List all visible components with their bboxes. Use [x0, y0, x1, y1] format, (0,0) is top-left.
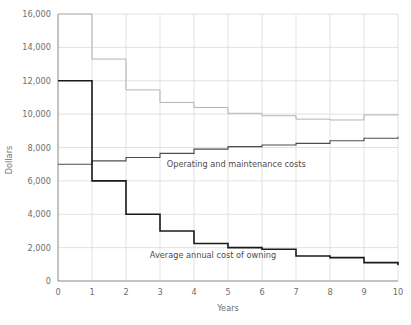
- series-annotation-label: Average annual cost of owning: [150, 250, 276, 260]
- y-axis-tick-labels: 02,0004,0006,0008,00010,00012,00014,0001…: [22, 9, 51, 286]
- x-tick-label: 5: [225, 287, 230, 297]
- y-tick-label: 8,000: [28, 143, 51, 153]
- y-axis-title: Dollars: [4, 146, 14, 175]
- x-tick-label: 2: [123, 287, 128, 297]
- y-tick-label: 6,000: [28, 176, 51, 186]
- y-tick-label: 12,000: [22, 76, 51, 86]
- x-tick-label: 10: [393, 287, 403, 297]
- x-tick-label: 6: [259, 287, 264, 297]
- y-tick-label: 16,000: [22, 9, 51, 19]
- x-tick-label: 7: [293, 287, 298, 297]
- y-tick-label: 2,000: [28, 243, 51, 253]
- x-tick-label: 8: [327, 287, 332, 297]
- x-tick-label: 4: [191, 287, 196, 297]
- series-annotation-label: Operating and maintenance costs: [167, 159, 306, 169]
- x-axis-title: Years: [216, 303, 239, 313]
- cost-comparison-line-chart: 02,0004,0006,0008,00010,00012,00014,0001…: [0, 0, 411, 325]
- x-tick-label: 9: [361, 287, 366, 297]
- chart-container: 02,0004,0006,0008,00010,00012,00014,0001…: [0, 0, 411, 325]
- x-tick-label: 3: [157, 287, 162, 297]
- x-tick-label: 0: [55, 287, 60, 297]
- y-tick-label: 14,000: [22, 42, 51, 52]
- x-tick-label: 1: [89, 287, 94, 297]
- y-tick-label: 0: [46, 276, 51, 286]
- y-tick-label: 4,000: [28, 209, 51, 219]
- y-tick-label: 10,000: [22, 109, 51, 119]
